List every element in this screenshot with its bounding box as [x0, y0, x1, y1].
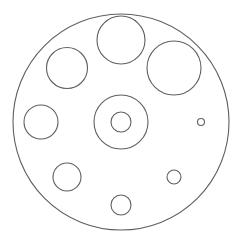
outer-plate-circle [13, 14, 229, 230]
circle-diagram [0, 0, 239, 245]
hole-circle-bottom-left [53, 163, 81, 191]
hole-circle-top-right [147, 41, 201, 95]
diagram-canvas: Circular plate with holes [0, 0, 239, 245]
hole-group [24, 16, 205, 215]
hole-circle-top-left [47, 48, 88, 89]
hole-circle-center-inner [111, 112, 131, 132]
hole-circle-right-small [198, 119, 205, 126]
hole-circle-bottom [111, 195, 131, 215]
hole-circle-bottom-right [167, 170, 181, 184]
hole-circle-left [24, 105, 58, 139]
hole-circle-center-outer [94, 95, 148, 149]
hole-circle-top [97, 16, 145, 64]
